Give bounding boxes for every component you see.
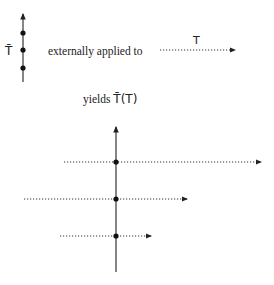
source-axis	[20, 14, 25, 82]
result-dot	[113, 159, 118, 164]
source-dot	[20, 47, 25, 52]
result-rays	[24, 159, 261, 238]
source-dot	[20, 30, 25, 35]
applied-label: T	[192, 34, 200, 47]
source-label: T̄	[4, 44, 13, 58]
result-caption: yields T̄(T)	[83, 92, 137, 106]
connector-text: externally applied to	[48, 45, 143, 58]
source-dot	[20, 65, 25, 70]
result-dot	[113, 196, 118, 201]
result-prefix: yields	[83, 93, 113, 106]
result-dot	[113, 233, 118, 238]
result-label: T̄(T)	[112, 92, 137, 106]
diagram-canvas: T̄ externally applied to T yields T̄(T)	[0, 0, 274, 285]
